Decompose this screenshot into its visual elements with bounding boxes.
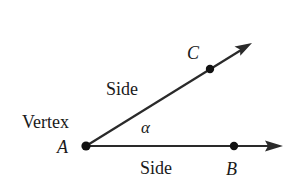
angle-svg <box>0 0 303 180</box>
point-c-dot <box>206 65 214 73</box>
angle-diagram: Vertex A C B Side Side α <box>0 0 303 180</box>
point-b-dot <box>230 142 238 150</box>
angle-alpha-label: α <box>141 119 150 136</box>
lower-side-label: Side <box>140 159 172 177</box>
upper-side-label: Side <box>106 80 138 98</box>
point-b-label: B <box>226 160 237 178</box>
point-a-label: A <box>57 138 68 156</box>
vertex-label: Vertex <box>22 113 69 131</box>
point-c-label: C <box>187 44 199 62</box>
ray-ac-arrowhead-icon <box>235 43 253 56</box>
point-a-dot <box>81 141 90 150</box>
